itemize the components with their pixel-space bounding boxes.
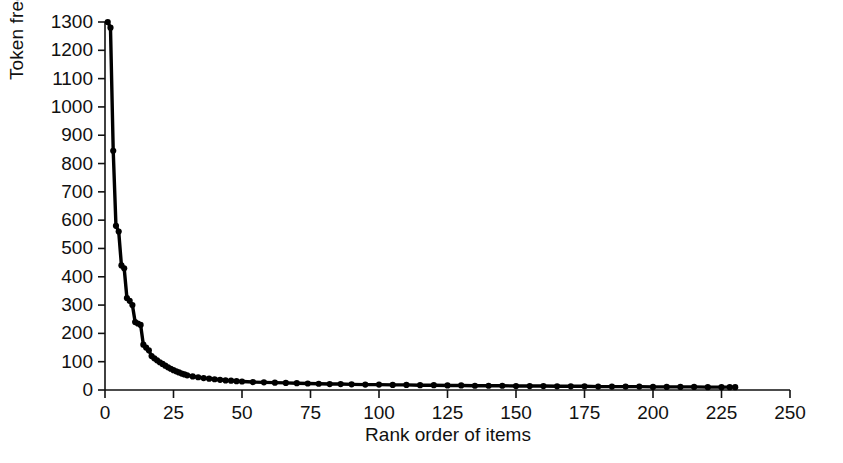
data-point — [283, 380, 289, 386]
y-axis-tick-label: 500 — [61, 237, 93, 258]
data-point — [705, 384, 711, 390]
y-axis-tick-label: 1000 — [51, 96, 93, 117]
y-axis-tick-label: 100 — [61, 351, 93, 372]
data-point — [664, 384, 670, 390]
data-point — [222, 377, 228, 383]
y-axis-tick-label: 1200 — [51, 39, 93, 60]
data-point — [403, 382, 409, 388]
data-point — [305, 380, 311, 386]
data-point — [338, 381, 344, 387]
data-point — [228, 378, 234, 384]
x-axis-tick-label: 175 — [569, 402, 601, 423]
data-point — [486, 383, 492, 389]
data-point — [113, 223, 119, 229]
y-axis-tick-label: 300 — [61, 294, 93, 315]
data-point — [691, 384, 697, 390]
data-point — [138, 322, 144, 328]
data-point — [327, 381, 333, 387]
data-point — [390, 382, 396, 388]
fit-curve — [108, 22, 735, 387]
data-point — [316, 381, 322, 387]
data-point — [107, 25, 113, 31]
x-axis-tick-label: 100 — [363, 402, 395, 423]
data-point — [458, 382, 464, 388]
data-point — [195, 374, 201, 380]
data-point — [294, 380, 300, 386]
data-point — [376, 382, 382, 388]
data-point — [732, 384, 738, 390]
data-point — [250, 379, 256, 385]
data-points-group — [105, 19, 739, 390]
data-point — [105, 19, 111, 25]
data-point — [272, 380, 278, 386]
y-axis-tick-label: 900 — [61, 124, 93, 145]
x-axis-title: Rank order of items — [105, 424, 791, 446]
data-point — [110, 148, 116, 154]
data-point — [212, 376, 218, 382]
data-point — [718, 384, 724, 390]
data-point — [650, 384, 656, 390]
y-axis-tick-label: 0 — [82, 379, 93, 400]
x-axis-tick-label: 25 — [163, 402, 184, 423]
x-axis-tick-label: 0 — [100, 402, 111, 423]
data-point — [727, 384, 733, 390]
x-axis-tick-label: 250 — [774, 402, 806, 423]
data-point — [527, 383, 533, 389]
data-point — [217, 377, 223, 383]
data-point — [201, 375, 207, 381]
data-point — [233, 378, 239, 384]
y-axis-tick-label: 800 — [61, 153, 93, 174]
data-point — [362, 382, 368, 388]
data-point — [206, 376, 212, 382]
data-point — [513, 383, 519, 389]
data-point — [636, 384, 642, 390]
x-axis-tick-label: 225 — [706, 402, 738, 423]
data-point — [540, 383, 546, 389]
data-point — [499, 383, 505, 389]
data-point — [184, 372, 190, 378]
y-axis-tick-label: 600 — [61, 209, 93, 230]
data-point — [609, 384, 615, 390]
data-point — [349, 381, 355, 387]
data-point — [595, 384, 601, 390]
data-point — [261, 379, 267, 385]
data-point — [190, 373, 196, 379]
x-axis-tick-label: 200 — [637, 402, 669, 423]
data-point — [623, 384, 629, 390]
data-point — [146, 347, 152, 353]
data-point — [239, 378, 245, 384]
data-point — [677, 384, 683, 390]
x-axis-tick-label: 75 — [300, 402, 321, 423]
data-point — [121, 265, 127, 271]
x-axis-tick-label: 150 — [500, 402, 532, 423]
data-point — [431, 382, 437, 388]
data-point — [417, 382, 423, 388]
data-point — [129, 302, 135, 308]
y-axis-tick-label: 400 — [61, 266, 93, 287]
data-point — [581, 383, 587, 389]
data-point — [116, 228, 122, 234]
y-axis-tick-label: 200 — [61, 322, 93, 343]
x-axis-tick-label: 50 — [231, 402, 252, 423]
zipf-frequency-chart: Token frequency 010020030040050060070080… — [0, 0, 843, 463]
y-axis-tick-label: 1100 — [52, 68, 93, 89]
x-axis-tick-label: 125 — [432, 402, 464, 423]
y-axis-tick-label: 700 — [61, 181, 93, 202]
plot-canvas: 0100200300400500600700800900100011001200… — [0, 0, 843, 463]
y-axis-tick-label: 1300 — [51, 11, 93, 32]
data-point — [568, 383, 574, 389]
data-point — [472, 383, 478, 389]
data-point — [444, 382, 450, 388]
data-point — [554, 383, 560, 389]
